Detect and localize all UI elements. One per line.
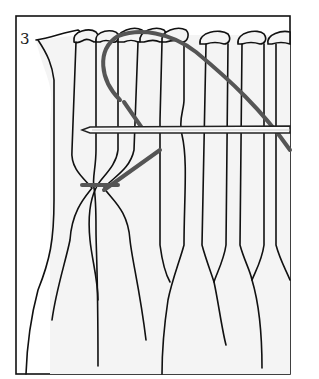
needle <box>82 126 290 133</box>
step-number-label: 3 <box>20 30 30 48</box>
smocking-diagram: 3 <box>0 0 319 379</box>
